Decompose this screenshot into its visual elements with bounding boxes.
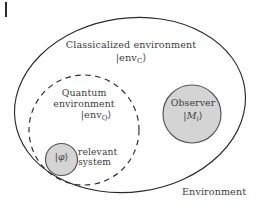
relevant-system-text-line2: system	[78, 157, 140, 167]
observer-text: Observer	[171, 97, 216, 108]
quantum-environment-text-line2: environment	[53, 98, 114, 109]
phi-symbol: φ	[58, 151, 65, 162]
relevant-system-label: relevant system	[78, 147, 140, 168]
environment-label: Environment	[182, 187, 258, 198]
quantum-environment-text-line1: Quantum	[62, 87, 107, 98]
observer-ket: |Mi⟩	[163, 111, 223, 123]
quantum-environment-label: Quantum environment |envQ⟩	[30, 88, 138, 122]
observer-label: Observer |Mi⟩	[163, 98, 223, 123]
quantum-environment-ket: |envQ⟩	[30, 110, 138, 122]
classicalized-environment-text: Classicalized environment	[66, 39, 196, 50]
quantum-environment-diagram: Classicalized environment |envC⟩ Quantum…	[0, 0, 262, 213]
observer-ket-symbol: M	[187, 110, 197, 121]
page-edge-mark	[5, 2, 7, 17]
classicalized-environment-ket: |envC⟩	[0, 53, 262, 64]
classicalized-environment-label: Classicalized environment |envC⟩	[0, 40, 262, 64]
relevant-system-ket: |φ⟩	[45, 152, 78, 163]
